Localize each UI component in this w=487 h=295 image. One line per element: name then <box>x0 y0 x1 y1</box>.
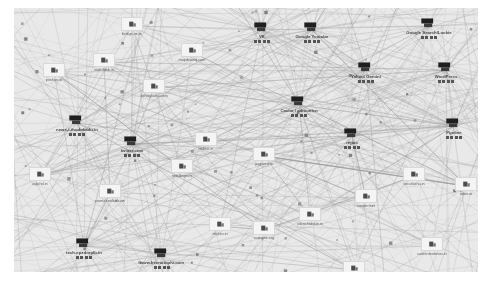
graph-node[interactable]: ban-reep.com <box>332 261 376 272</box>
node-connector-dots <box>76 256 93 259</box>
node-label: www.ceonlan.com <box>95 199 126 203</box>
favicon-icon <box>403 167 425 181</box>
node-label: cander.bet <box>357 204 375 208</box>
graph-node[interactable]: sotelbrgines <box>160 159 204 178</box>
node-label: corkenterdetoo.in <box>417 252 446 256</box>
favicon-icon <box>195 132 217 146</box>
brand-mark-icon <box>73 237 95 250</box>
node-connector-dots <box>344 146 361 149</box>
brand-mark-icon <box>443 117 465 130</box>
graph-node[interactable]: rabrichtdskie.in <box>288 207 332 226</box>
node-label: Pipdine <box>446 131 462 136</box>
favicon-icon <box>455 177 477 191</box>
favicon-icon <box>253 147 275 161</box>
node-connector-dots <box>438 80 455 83</box>
graph-node[interactable]: pxsharr.in <box>32 63 76 82</box>
graph-node[interactable]: camqwe.org <box>242 221 286 240</box>
node-connector-dots <box>358 80 375 83</box>
graph-node[interactable]: Google Search/Lookie <box>407 17 451 40</box>
node-label: rabrichtdskie.in <box>297 222 323 226</box>
graph-node[interactable]: mapdisanq.com <box>170 43 214 62</box>
node-label: Yahoo/ Gemini <box>351 75 381 80</box>
node-label: rejtoc <box>346 141 358 146</box>
node-label: nsfline.in <box>199 147 214 151</box>
graph-node[interactable]: aglohd.in <box>18 167 62 186</box>
brand-mark-icon <box>288 95 310 108</box>
node-connector-dots <box>124 154 141 157</box>
favicon-icon <box>99 184 121 198</box>
node-label: sdohin.in <box>212 232 227 236</box>
graph-node[interactable]: WordPress <box>424 61 468 84</box>
brand-mark-icon <box>355 61 377 74</box>
node-label: sotelbrgines <box>172 174 192 178</box>
favicon-icon <box>29 167 51 181</box>
node-label: Google Youtube <box>296 35 329 40</box>
graph-node[interactable]: news-i-thodokadu.in <box>55 114 99 137</box>
favicon-icon <box>253 221 275 235</box>
graph-node[interactable]: Google Youtube <box>290 21 334 44</box>
favicon-icon <box>299 207 321 221</box>
graph-node[interactable]: Pipdine <box>432 117 476 140</box>
brand-mark-icon <box>301 21 323 34</box>
node-connector-dots <box>291 114 308 117</box>
node-label: WordPress <box>435 75 458 80</box>
graph-node[interactable]: corkenterdetoo.in <box>410 237 454 256</box>
node-label: jaxpertw.in <box>255 162 273 166</box>
graph-node[interactable]: tuber.at <box>444 177 478 196</box>
graph-node[interactable]: secutlathu.in <box>392 167 436 186</box>
node-connector-dots <box>154 266 171 269</box>
node-label: secutlathu.in <box>403 182 424 186</box>
node-label: wae-fabb.in <box>94 68 114 72</box>
graph-node[interactable]: nsfline.in <box>184 132 228 151</box>
node-connector-dots <box>304 40 321 43</box>
brand-mark-icon <box>121 135 143 148</box>
node-connector-dots <box>254 40 271 43</box>
node-label: news-i-thodokadu.in <box>56 128 98 133</box>
brand-mark-icon <box>151 247 173 260</box>
graph-node[interactable]: wae-fabb.in <box>82 53 126 72</box>
node-label: sohogoarta.com <box>140 94 167 98</box>
node-label: aglohd.in <box>32 182 47 186</box>
node-label: VK <box>259 35 265 40</box>
graph-node[interactable]: bridge-vn.in <box>110 17 154 36</box>
graph-canvas[interactable]: bridge-vn.inmapdisanq.comVKGoogle Youtub… <box>14 8 478 272</box>
node-label: tech-epzdorplb.in <box>66 251 102 256</box>
node-connector-dots <box>69 133 86 136</box>
favicon-icon <box>209 217 231 231</box>
tracking-graph-app: bridge-vn.inmapdisanq.comVKGoogle Youtub… <box>0 0 487 295</box>
node-label: tuber.at <box>460 192 473 196</box>
favicon-icon <box>343 261 365 272</box>
brand-mark-icon <box>251 21 273 34</box>
graph-node[interactable]: VK <box>240 21 284 44</box>
graph-node[interactable]: Yahoo/ Gemini <box>344 61 388 84</box>
favicon-icon <box>43 63 65 77</box>
node-label: bridge-vn.in <box>122 32 142 36</box>
node-label: camqwe.org <box>254 236 275 240</box>
node-connector-dots <box>421 36 438 39</box>
graph-node[interactable]: www.keenotophi.com <box>140 247 184 270</box>
brand-mark-icon <box>341 127 363 140</box>
graph-node[interactable]: sohogoarta.com <box>132 79 176 98</box>
favicon-icon <box>171 159 193 173</box>
brand-mark-icon <box>435 61 457 74</box>
node-label: pxsharr.in <box>46 78 62 82</box>
favicon-icon <box>355 189 377 203</box>
favicon-icon <box>121 17 143 31</box>
favicon-icon <box>143 79 165 93</box>
node-label: mapdisanq.com <box>179 58 206 62</box>
graph-node[interactable]: twitter.com <box>110 135 154 158</box>
brand-mark-icon <box>418 17 440 30</box>
node-label: Google Search/Lookie <box>406 31 451 36</box>
graph-node[interactable]: tech-epzdorplb.in <box>62 237 106 260</box>
node-label: twitter.com <box>121 149 144 154</box>
node-label: www.keenotophi.com <box>140 261 184 266</box>
graph-node[interactable]: cander.bet <box>344 189 388 208</box>
brand-mark-icon <box>66 114 88 127</box>
favicon-icon <box>421 237 443 251</box>
node-label: Casior / aditionlen <box>280 109 317 114</box>
graph-node[interactable]: rejtoc <box>330 127 374 150</box>
graph-node[interactable]: jaxpertw.in <box>242 147 286 166</box>
graph-node[interactable]: Casior / aditionlen <box>277 95 321 118</box>
graph-node[interactable]: www.ceonlan.com <box>88 184 132 203</box>
graph-node[interactable]: sdohin.in <box>198 217 242 236</box>
